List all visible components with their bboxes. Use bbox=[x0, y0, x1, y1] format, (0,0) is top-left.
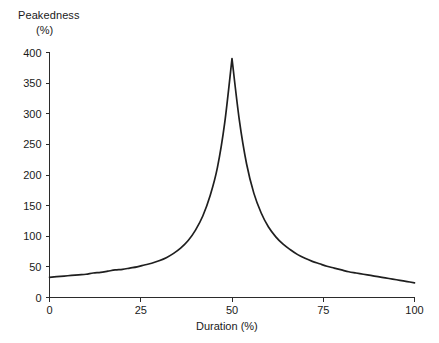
peakedness-duration-chart: Peakedness (%) Duration (%) 050100150200… bbox=[0, 0, 439, 343]
x-tick-label: 100 bbox=[405, 304, 423, 316]
y-tick-label: 400 bbox=[23, 47, 41, 59]
x-axis-ticks: 0255075100 bbox=[46, 298, 423, 316]
x-tick-label: 25 bbox=[135, 304, 147, 316]
y-tick-label: 200 bbox=[23, 169, 41, 181]
y-axis-ticks: 050100150200250300350400 bbox=[23, 47, 49, 304]
y-tick-label: 300 bbox=[23, 108, 41, 120]
y-tick-label: 350 bbox=[23, 77, 41, 89]
data-series-line bbox=[50, 59, 415, 283]
y-tick-label: 150 bbox=[23, 200, 41, 212]
y-tick-label: 250 bbox=[23, 138, 41, 150]
x-tick-label: 0 bbox=[46, 304, 52, 316]
y-tick-label: 100 bbox=[23, 230, 41, 242]
y-tick-label: 50 bbox=[29, 261, 41, 273]
x-tick-label: 50 bbox=[226, 304, 238, 316]
y-tick-label: 0 bbox=[35, 292, 41, 304]
x-tick-label: 75 bbox=[317, 304, 329, 316]
plot-area: 050100150200250300350400 0255075100 bbox=[0, 0, 439, 343]
